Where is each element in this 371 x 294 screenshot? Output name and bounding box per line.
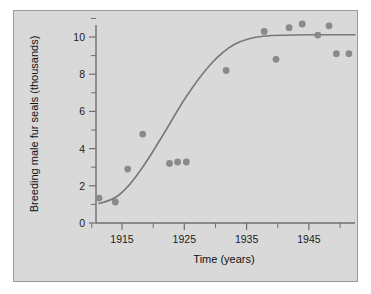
y-axis-title: Breeding male fur seals (thousands) — [28, 36, 40, 213]
y-tick-labels: 0 2 4 6 8 10 — [73, 31, 85, 229]
x-tick-label: 1925 — [173, 233, 197, 245]
data-point — [333, 50, 340, 57]
chart-plate: 0 2 4 6 8 10 — [13, 10, 358, 282]
x-ticks — [92, 223, 340, 230]
data-point — [166, 160, 173, 167]
chart-panel: 0 2 4 6 8 10 — [14, 11, 359, 283]
data-point — [346, 50, 353, 57]
data-point — [299, 21, 306, 28]
data-point — [261, 28, 268, 35]
data-point — [124, 166, 131, 173]
axes-group — [96, 25, 355, 223]
data-point — [183, 159, 190, 166]
y-tick-label: 6 — [79, 105, 85, 117]
data-point — [96, 195, 103, 202]
data-point — [139, 131, 146, 138]
scatter-chart: 0 2 4 6 8 10 — [14, 11, 359, 283]
data-point — [223, 67, 230, 74]
data-point — [174, 159, 181, 166]
x-tick-label: 1935 — [235, 233, 259, 245]
x-tick-label: 1945 — [297, 233, 321, 245]
y-tick-label: 2 — [79, 180, 85, 192]
data-point — [314, 32, 321, 39]
y-tick-label: 0 — [79, 217, 85, 229]
figure-root: 0 2 4 6 8 10 — [0, 0, 371, 294]
data-point — [326, 22, 333, 29]
data-point — [286, 24, 293, 31]
y-tick-label: 10 — [73, 31, 85, 43]
x-tick-labels: 1915 1925 1935 1945 — [110, 233, 320, 245]
y-tick-label: 8 — [79, 68, 85, 80]
y-tick-label: 4 — [79, 143, 85, 155]
data-point — [112, 199, 119, 206]
data-point — [273, 56, 280, 63]
logistic-fit-curve — [99, 35, 355, 204]
x-tick-label: 1915 — [110, 233, 134, 245]
x-axis-title: Time (years) — [193, 253, 254, 265]
